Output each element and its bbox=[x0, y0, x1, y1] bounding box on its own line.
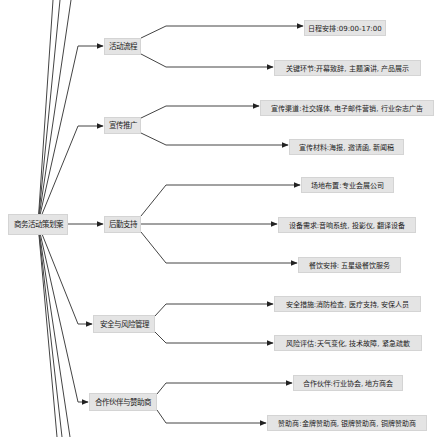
edge-root-branch-1 bbox=[38, 126, 103, 224]
branch-node-partners-sponsors[interactable]: 合作伙伴与赞助商 bbox=[89, 393, 157, 411]
leaf-node-risk-assessment[interactable]: 风险评估:天气变化, 技术故障, 紧急疏散 bbox=[274, 335, 422, 351]
offscreen-edge bbox=[38, 0, 60, 224]
leaf-node-promo-materials[interactable]: 宣传材料:海报, 邀请函, 新闻稿 bbox=[289, 139, 404, 155]
branch-node-safety-risk[interactable]: 安全与风险管理 bbox=[93, 315, 155, 333]
offscreen-edge bbox=[38, 224, 62, 437]
leaf-node-safety-measures[interactable]: 安全措施:消防检查, 医疗支持, 安保人员 bbox=[274, 296, 421, 312]
offscreen-edge bbox=[38, 0, 71, 224]
leaf-node-catering[interactable]: 餐饮安排: 五星级餐饮服务 bbox=[298, 257, 401, 273]
leaf-node-key-segments[interactable]: 关键环节:开幕致辞, 主题演讲, 产品展示 bbox=[274, 60, 421, 76]
branch-node-activity-flow[interactable]: 活动流程 bbox=[104, 38, 141, 55]
edge-root-branch-3 bbox=[38, 224, 92, 324]
leaf-node-sponsors[interactable]: 赞助商:金牌赞助商, 银牌赞助商, 铜牌赞助商 bbox=[267, 415, 427, 431]
leaf-node-partners[interactable]: 合作伙伴:行业协会, 地方商会 bbox=[293, 375, 403, 391]
leaf-node-promo-channels[interactable]: 宣传渠道:社交媒体, 电子邮件营销, 行业杂志广告 bbox=[260, 100, 434, 116]
leaf-node-schedule[interactable]: 日程安排:09:00-17:00 bbox=[304, 20, 386, 36]
root-node[interactable]: 商务活动策划案 bbox=[8, 214, 68, 235]
leaf-node-equipment[interactable]: 设备需求:音响系统, 投影仪, 翻译设备 bbox=[278, 217, 416, 233]
leaf-node-venue-setup[interactable]: 场地布置:专业会展公司 bbox=[301, 177, 394, 193]
branch-node-promotion[interactable]: 宣传推广 bbox=[104, 117, 141, 134]
branch-node-logistics[interactable]: 后勤支持 bbox=[104, 216, 141, 233]
